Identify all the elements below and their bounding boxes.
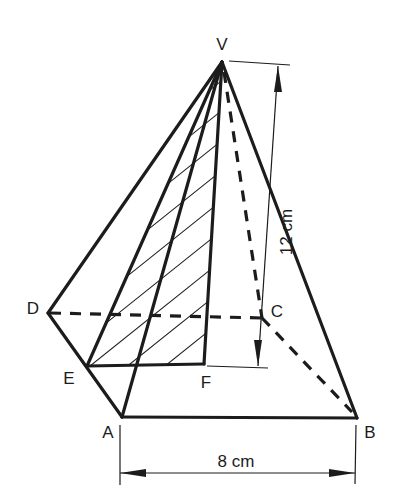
hidden-edge-vc (224, 72, 262, 318)
base-label: 8 cm (218, 452, 255, 471)
vertex-label-a: A (102, 423, 114, 442)
vertex-label-d: D (27, 299, 39, 318)
edge-vd (48, 62, 222, 313)
height-label: 12 cm (277, 209, 296, 255)
vertex-label-e: E (63, 369, 74, 388)
edge-ef (87, 364, 204, 366)
vertex-label-c: C (271, 302, 283, 321)
edge-ab (122, 417, 357, 418)
vertex-label-f: F (201, 373, 211, 392)
edge-ve (87, 62, 222, 366)
pyramid-diagram: 12 cm 8 cm V D C E F A B (0, 0, 393, 503)
vertex-label-b: B (364, 423, 375, 442)
vertex-label-v: V (216, 35, 228, 54)
